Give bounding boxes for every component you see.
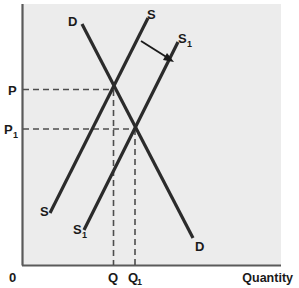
supply-shifted-label-bottom-subscript: 1 <box>82 230 87 240</box>
origin-label: 0 <box>9 270 16 285</box>
y-tick-label-p1: P 1 <box>4 122 18 140</box>
x-tick-label-q1-subscript: 1 <box>137 277 142 287</box>
supply-curve-label-bottom: S <box>40 204 49 219</box>
y-tick-label-p1-subscript: 1 <box>13 130 18 140</box>
chart-canvas: 0 Quantity Q Q 1 P P 1 D D S S S 1 <box>0 0 299 288</box>
demand-curve-label-top: D <box>68 14 77 29</box>
x-tick-label-q: Q <box>108 270 118 285</box>
x-tick-label-q1: Q 1 <box>128 270 142 287</box>
supply-shifted-label-bottom-base: S <box>73 222 82 237</box>
x-axis-title: Quantity <box>242 271 293 285</box>
supply-shifted-label-top-subscript: 1 <box>187 39 192 49</box>
y-tick-label-p: P <box>8 83 17 98</box>
supply-curve-label-top: S <box>147 7 156 22</box>
y-tick-label-p1-base: P <box>4 122 13 137</box>
supply-demand-figure: 0 Quantity Q Q 1 P P 1 D D S S S 1 <box>0 0 299 288</box>
demand-curve-label-bottom: D <box>195 239 204 254</box>
supply-shifted-label-top-base: S <box>178 31 187 46</box>
plot-area-background <box>22 4 281 265</box>
